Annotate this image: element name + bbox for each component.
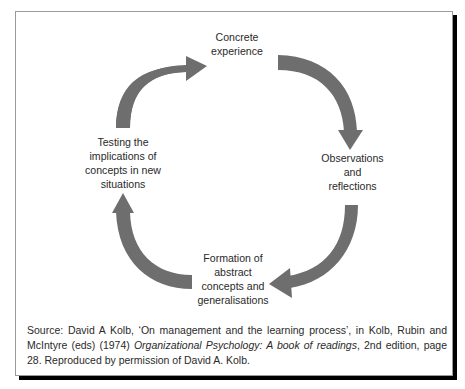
stage-label-line: generalisations (192, 293, 275, 307)
stage-testing-implications: Testing the implications of concepts in … (82, 135, 165, 191)
arrow-testing-to-concrete-icon (116, 56, 207, 128)
source-citation: Source: David A Kolb, ‘On management and… (27, 323, 447, 368)
stage-label-line: situations (82, 177, 165, 191)
stage-concrete-experience: Concrete experience (200, 30, 274, 58)
arrow-observations-to-formation-icon (269, 205, 358, 298)
stage-label-line: abstract (192, 265, 275, 279)
stage-label-line: Concrete (200, 30, 274, 44)
stage-label-line: reflections (309, 179, 396, 193)
stage-label-line: Formation of (192, 251, 275, 265)
stage-label-line: Observations (309, 151, 396, 165)
arrow-concrete-to-observations-icon (278, 55, 363, 150)
arrow-formation-to-testing-icon (112, 193, 192, 289)
stage-label-line: concepts in new (82, 163, 165, 177)
stage-observations-reflections: Observations and reflections (309, 151, 396, 193)
citation-book-title: Organizational Psychology: A book of rea… (134, 339, 357, 351)
stage-label-line: concepts and (192, 279, 275, 293)
stage-label-line: and (309, 165, 396, 179)
stage-label-line: Testing the (82, 135, 165, 149)
stage-label-line: implications of (82, 149, 165, 163)
stage-label-line: experience (200, 44, 274, 58)
stage-formation-abstract-concepts: Formation of abstract concepts and gener… (192, 251, 275, 307)
